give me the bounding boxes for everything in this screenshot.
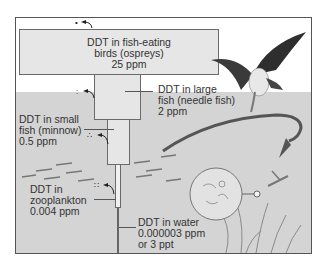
- ddt-dots-icon: ∴: [87, 132, 92, 140]
- diagram-frame: DDT in fish-eating birds (ospreys) 25 pp…: [15, 17, 312, 254]
- needle-fish-level-box: [94, 74, 141, 120]
- osprey-illustration-icon: [211, 20, 311, 115]
- needle-fish-leader-line: [125, 91, 153, 92]
- curved-arrow-icon: [80, 87, 96, 99]
- water-level-line: [117, 208, 119, 254]
- zooplankton-leader-line: [94, 199, 116, 200]
- zooplankton-level-label: DDT in zooplankton 0.004 ppm: [30, 184, 87, 217]
- curved-arrow-icon: [78, 19, 94, 29]
- osprey-label-line3: 25 ppm: [74, 59, 184, 70]
- zooplankton-label-line3: 0.004 ppm: [30, 206, 87, 217]
- water-leader-line: [119, 227, 136, 228]
- aquatic-plant-illustration-icon: [216, 193, 311, 254]
- osprey-level-label: DDT in fish-eating birds (ospreys) 25 pp…: [74, 37, 184, 70]
- ddt-dots-icon: :: [76, 88, 78, 96]
- minnow-leader-line: [84, 129, 114, 130]
- water-label-line3: or 3 ppt: [138, 239, 205, 250]
